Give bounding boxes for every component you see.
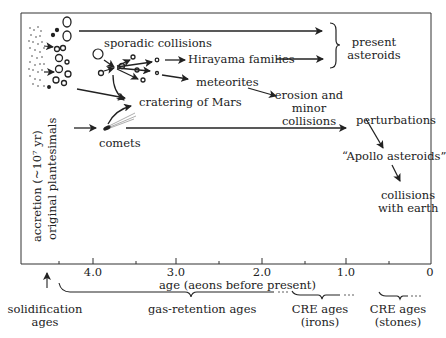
comet-icon — [103, 113, 136, 132]
cratering-of-mars-label: cratering of Mars — [139, 96, 242, 109]
hirayama-families-label: Hirayama families — [188, 53, 295, 66]
comets-label: comets — [99, 137, 141, 150]
erosion-label-3: collisions — [270, 115, 348, 128]
original-planetesimals-label: original plantesimals — [46, 118, 59, 240]
tick-label-4: 4.0 — [78, 266, 108, 279]
cre-irons-label-2: (irons) — [290, 316, 350, 329]
planetesimal-cloud-icon — [28, 26, 45, 87]
gas-retention-label: gas-retention ages — [148, 303, 256, 316]
perturbations-label: perturbations — [356, 114, 436, 127]
tick-label-0: 0 — [420, 266, 440, 279]
meteorites-label: meteorites — [196, 76, 259, 89]
planetesimal-boulders-icon — [48, 17, 71, 88]
cre-stones-label-2: (stones) — [368, 316, 428, 329]
present-asteroids-label-2: asteroids — [339, 49, 409, 62]
collisions-earth-label-2: with earth — [378, 202, 438, 215]
axis-ticks — [59, 258, 389, 264]
axis-title: age (aeons before present) — [159, 279, 316, 292]
sporadic-collisions-label: sporadic collisions — [104, 37, 212, 50]
accretion-label: accretion (~10⁷ yr) — [31, 130, 44, 242]
solidification-label-2: ages — [5, 316, 85, 329]
continuation-dots — [278, 291, 420, 296]
apollo-asteroids-label: “Apollo asteroids” — [342, 150, 446, 163]
tick-label-1: 1.0 — [331, 266, 361, 279]
